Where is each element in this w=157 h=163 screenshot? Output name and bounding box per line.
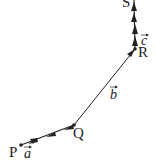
arrowhead-icon [131, 2, 137, 11]
point-q-label: Q [73, 125, 84, 141]
svg-text:b: b [110, 87, 117, 102]
vector-a-label: a [24, 146, 32, 162]
vector-a [21, 125, 74, 145]
vector-b [74, 49, 135, 125]
vector-b-label: b [110, 86, 118, 103]
vector-c [131, 0, 138, 49]
arrowhead-icon [132, 24, 138, 34]
point-p-dot [19, 143, 23, 147]
point-p-label: P [9, 144, 17, 160]
point-r-dot [133, 47, 137, 51]
svg-text:a: a [24, 146, 31, 161]
arrowhead-icon [131, 13, 137, 22]
point-s-label: S [122, 0, 130, 10]
vector-diagram: P Q R S a b c [0, 0, 157, 163]
